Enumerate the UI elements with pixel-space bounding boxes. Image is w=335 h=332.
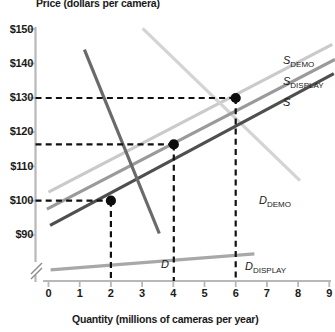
curve-label-d: D — [161, 258, 169, 270]
equilibrium-point — [231, 93, 241, 103]
x-tick-label: 0 — [39, 287, 59, 299]
curve-label-d-demo: DDEMO — [259, 194, 291, 209]
x-tick-label: 1 — [70, 287, 90, 299]
x-tick-label: 6 — [226, 287, 246, 299]
x-tick-label: 8 — [288, 287, 308, 299]
x-axis-title: Quantity (millions of cameras per year) — [72, 313, 259, 325]
demand-curve-display — [51, 254, 255, 270]
equilibrium-point — [106, 196, 116, 206]
supply-curve-base — [50, 74, 334, 226]
x-tick-label: 9 — [319, 287, 335, 299]
curve-label-s-display: SDISPLAY — [283, 75, 324, 90]
x-tick-label: 7 — [257, 287, 277, 299]
curve-label-s-demo: SDEMO — [283, 54, 314, 69]
x-tick-label: 5 — [195, 287, 215, 299]
curve-label-s: S — [283, 96, 290, 108]
supply-demand-chart: Price (dollars per camera) — [0, 0, 335, 332]
x-tick-label: 2 — [101, 287, 121, 299]
x-tick-label: 4 — [163, 287, 183, 299]
equilibrium-point — [169, 139, 179, 149]
x-tick-label: 3 — [132, 287, 152, 299]
curve-label-d-display: DDISPLAY — [245, 260, 286, 275]
chart-canvas — [0, 0, 335, 332]
